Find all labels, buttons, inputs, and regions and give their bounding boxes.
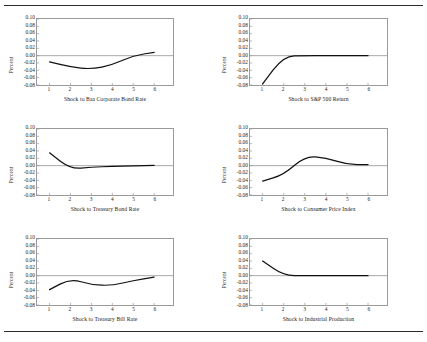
plot-area <box>36 238 174 306</box>
panel-caption: Shock to Industrial Production <box>249 316 388 322</box>
y-tick-label: 0.00 <box>26 273 35 278</box>
y-tick-label: -0.06 <box>237 76 248 81</box>
y-tick-label: -0.02 <box>237 281 248 286</box>
x-tick-label: 4 <box>111 87 114 92</box>
y-tick-label: 0.04 <box>26 38 35 43</box>
y-tick-label: 0.02 <box>239 266 248 271</box>
x-tick-label: 1 <box>47 87 50 92</box>
y-tick-label: 0.06 <box>26 30 35 35</box>
y-tick-label: -0.06 <box>237 186 248 191</box>
y-tick-label: 0.00 <box>239 273 248 278</box>
y-tick-label: -0.08 <box>237 193 248 198</box>
y-tick-label: -0.08 <box>237 303 248 308</box>
x-tick-label: 2 <box>69 307 72 312</box>
x-tick-label: 5 <box>132 197 135 202</box>
y-tick-label: 0.08 <box>239 133 248 138</box>
y-tick-label: 0.04 <box>239 38 248 43</box>
y-tick-label: 0.00 <box>239 163 248 168</box>
y-tick-label: 0.10 <box>26 235 35 240</box>
y-tick-label: -0.04 <box>24 68 35 73</box>
y-tick-label: 0.02 <box>26 266 35 271</box>
y-tick-label: 0.10 <box>239 125 248 130</box>
x-tick-label: 6 <box>154 307 157 312</box>
plot-area <box>36 128 174 196</box>
x-tick-label: 1 <box>260 307 263 312</box>
y-tick-label: -0.04 <box>24 178 35 183</box>
y-tick-label: -0.02 <box>24 171 35 176</box>
y-tick-label: 0.06 <box>26 250 35 255</box>
x-tick-label: 1 <box>260 87 263 92</box>
y-tick-label: 0.10 <box>26 125 35 130</box>
x-tick-label: 5 <box>346 197 349 202</box>
x-tick-label: 3 <box>90 197 93 202</box>
y-axis-ticks: 0.100.080.060.040.020.00-0.02-0.04-0.06-… <box>224 128 248 196</box>
y-tick-label: -0.06 <box>24 296 35 301</box>
x-tick-label: 2 <box>69 197 72 202</box>
panel-treasury-bill-rate: Percent 0.100.080.060.040.020.00-0.02-0.… <box>0 230 213 330</box>
x-tick-label: 3 <box>90 87 93 92</box>
x-axis-ticks: 123456 <box>36 87 174 96</box>
y-tick-label: 0.00 <box>26 163 35 168</box>
x-tick-label: 3 <box>303 197 306 202</box>
y-tick-label: -0.02 <box>237 171 248 176</box>
y-tick-label: 0.06 <box>239 140 248 145</box>
y-tick-label: 0.00 <box>239 53 248 58</box>
series-svg <box>250 239 387 305</box>
x-tick-label: 4 <box>111 197 114 202</box>
y-tick-label: -0.04 <box>237 178 248 183</box>
y-tick-label: 0.02 <box>239 156 248 161</box>
panel-industrial-production: Percent 0.100.080.060.040.020.00-0.02-0.… <box>213 230 427 330</box>
x-axis-ticks: 123456 <box>36 307 174 316</box>
x-tick-label: 2 <box>282 197 285 202</box>
plot-area <box>249 18 388 86</box>
x-tick-label: 2 <box>69 87 72 92</box>
panel-caption: Shock to Baa Corporate Bond Rate <box>36 96 174 102</box>
y-tick-label: 0.04 <box>26 148 35 153</box>
y-tick-label: 0.10 <box>239 235 248 240</box>
y-tick-label: -0.02 <box>24 281 35 286</box>
series-svg <box>250 19 387 85</box>
y-tick-label: -0.08 <box>24 303 35 308</box>
y-tick-label: 0.00 <box>26 53 35 58</box>
panel-caption: Shock to Treasury Bond Rate <box>36 206 174 212</box>
x-tick-label: 1 <box>47 307 50 312</box>
x-tick-label: 5 <box>132 307 135 312</box>
y-tick-label: 0.04 <box>239 148 248 153</box>
x-tick-label: 4 <box>325 87 328 92</box>
series-svg <box>37 239 173 305</box>
y-tick-label: 0.06 <box>26 140 35 145</box>
x-tick-label: 4 <box>325 197 328 202</box>
y-tick-label: 0.08 <box>26 243 35 248</box>
y-tick-label: -0.04 <box>24 288 35 293</box>
y-tick-label: -0.08 <box>24 83 35 88</box>
y-axis-ticks: 0.100.080.060.040.020.00-0.02-0.04-0.06-… <box>224 18 248 86</box>
panel-grid: Percent 0.100.080.060.040.020.00-0.02-0.… <box>0 10 427 330</box>
x-axis-ticks: 123456 <box>249 87 388 96</box>
y-tick-label: -0.08 <box>24 193 35 198</box>
x-tick-label: 5 <box>346 87 349 92</box>
panel-caption: Shock to Consumer Price Index <box>249 206 388 212</box>
y-tick-label: -0.02 <box>237 61 248 66</box>
x-tick-label: 5 <box>346 307 349 312</box>
x-tick-label: 6 <box>154 87 157 92</box>
y-tick-label: -0.04 <box>237 288 248 293</box>
plot-area <box>249 238 388 306</box>
x-tick-label: 2 <box>282 307 285 312</box>
x-tick-label: 6 <box>367 307 370 312</box>
top-rule <box>4 5 423 6</box>
y-tick-label: 0.10 <box>26 15 35 20</box>
x-tick-label: 3 <box>90 307 93 312</box>
x-tick-label: 4 <box>111 307 114 312</box>
series-svg <box>37 129 173 195</box>
plot-area <box>36 18 174 86</box>
panel-consumer-price-index: Percent 0.100.080.060.040.020.00-0.02-0.… <box>213 120 427 230</box>
y-tick-label: 0.08 <box>26 23 35 28</box>
figure-page: Percent 0.100.080.060.040.020.00-0.02-0.… <box>0 0 427 342</box>
y-tick-label: -0.06 <box>237 296 248 301</box>
y-axis-ticks: 0.100.080.060.040.020.00-0.02-0.04-0.06-… <box>11 128 35 196</box>
y-axis-ticks: 0.100.080.060.040.020.00-0.02-0.04-0.06-… <box>11 238 35 306</box>
impulse-response-line <box>263 157 368 181</box>
y-tick-label: 0.02 <box>26 156 35 161</box>
y-tick-label: 0.10 <box>239 15 248 20</box>
impulse-response-line <box>50 52 155 68</box>
